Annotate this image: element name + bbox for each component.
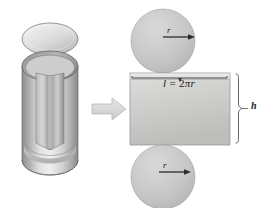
bottom-circle-face	[131, 145, 195, 208]
equals-sign: =	[166, 77, 179, 89]
circumference-formula-label: l = 2πr	[163, 78, 195, 89]
height-label: h	[251, 101, 257, 111]
cylinder-net-diagram: l = 2πr r r h	[0, 0, 267, 208]
cut-open-cylinder	[22, 23, 78, 175]
radius-symbol: r	[191, 77, 196, 89]
transform-arrow	[92, 98, 126, 120]
height-brace	[236, 74, 248, 143]
cylinder-lid-ellipse	[22, 23, 78, 55]
diagram-canvas	[0, 0, 267, 208]
top-circle-face	[131, 9, 195, 73]
radius-label-bottom: r	[163, 161, 167, 170]
radius-label-top: r	[167, 26, 171, 35]
